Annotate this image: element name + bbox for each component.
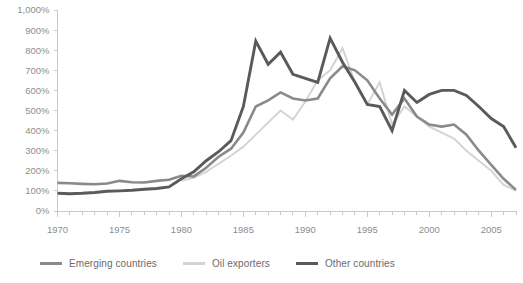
x-tick-label: 1990: [295, 224, 316, 235]
legend-item[interactable]: Emerging countries: [40, 258, 157, 269]
x-tick-label: 1985: [233, 224, 254, 235]
y-tick-label: 1,000%: [17, 4, 50, 15]
y-tick-label: 200%: [25, 165, 50, 176]
x-tick-label: 2000: [419, 224, 440, 235]
legend-swatch-icon: [296, 262, 318, 265]
x-tick-label: 1995: [357, 224, 378, 235]
series-line-emerging-countries: [58, 66, 517, 190]
y-tick-label: 300%: [25, 145, 50, 156]
chart-plot-area: 1,000%900%800%700%600%500%400%300%200%10…: [0, 0, 523, 283]
y-tick-label: 100%: [25, 185, 50, 196]
x-tick-label: 1975: [109, 224, 130, 235]
y-tick-label: 500%: [25, 105, 50, 116]
y-tick-label: 0%: [36, 205, 50, 216]
x-tick-label: 2005: [481, 224, 502, 235]
y-tick-label: 900%: [25, 25, 50, 36]
legend-label: Emerging countries: [69, 258, 157, 269]
y-tick-label: 600%: [25, 85, 50, 96]
y-tick-label: 700%: [25, 65, 50, 76]
legend-swatch-icon: [183, 262, 205, 265]
x-tick-label: 1980: [171, 224, 192, 235]
legend-item[interactable]: Other countries: [296, 258, 395, 269]
chart-legend: Emerging countriesOil exportersOther cou…: [40, 255, 440, 271]
legend-item[interactable]: Oil exporters: [183, 258, 270, 269]
line-chart: 1,000%900%800%700%600%500%400%300%200%10…: [0, 0, 523, 283]
legend-label: Other countries: [325, 258, 395, 269]
x-tick-label: 1970: [47, 224, 68, 235]
legend-swatch-icon: [40, 262, 62, 265]
y-tick-label: 800%: [25, 45, 50, 56]
y-tick-label: 400%: [25, 125, 50, 136]
legend-label: Oil exporters: [212, 258, 270, 269]
